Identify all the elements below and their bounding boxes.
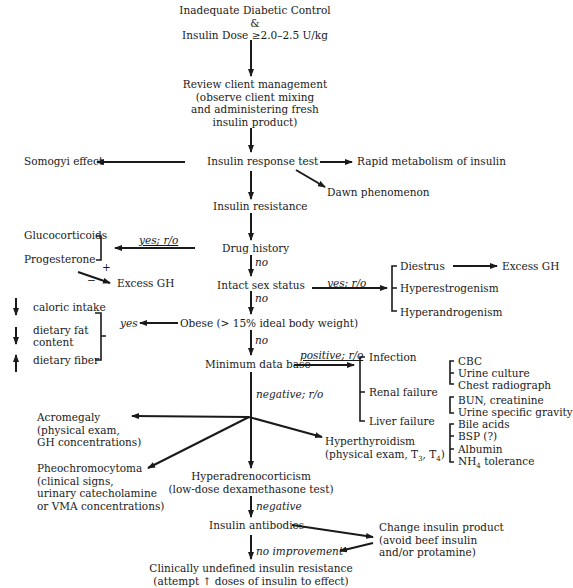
dietary-fat-line2: content [33,336,73,349]
hyperthyroidism-node: Hyperthyroidism (physical exam, T3, T4) [325,435,445,465]
clinically-undefined-node: Clinically undefined insulin resistance … [131,562,371,587]
nh4-base: NH [458,455,476,467]
change-line3: and/or protamine) [379,546,504,559]
caloric-intake: caloric intake [33,301,106,314]
minimum-data-base-node: Minimum data base [205,358,311,371]
dietary-fiber: dietary fiber [33,354,99,367]
hyperadrenocorticism-node: Hyperadrenocorticism (low-dose dexametha… [166,470,336,495]
acromegaly-line2: (physical exam, [37,424,141,437]
pheo-line3: urinary catecholamine [37,487,164,500]
progesterone-node: Progesterone [24,253,95,266]
acromegaly-line1: Acromegaly [37,411,141,424]
intact-sex-status-node: Intact sex status [217,279,305,292]
review-line4: insulin product) [160,116,350,129]
excess-gh-node-1: Excess GH [117,277,174,290]
hac-line2: (low-dose dexamethasone test) [166,483,336,496]
acromegaly-line3: GH concentrations) [37,436,141,449]
diestrus-node: Diestrus [400,260,445,273]
obese-no-label: no [255,334,268,347]
pheo-line4: or VMA concentrations) [37,500,164,513]
mdb-negative-label: negative; r/o [256,388,323,401]
hyperthyroid-line1: Hyperthyroidism [325,435,445,448]
infection-node: Infection [369,351,417,364]
hyperandrogenism-node: Hyperandrogenism [400,306,503,319]
dawn-phenomenon-node: Dawn phenomenon [327,186,430,199]
test-bsp: BSP (?) [458,430,497,443]
start-line2: & [150,17,360,30]
start-line1: Inadequate Diabetic Control [150,4,360,17]
drug-history-node: Drug history [222,242,289,255]
change-insulin-node: Change insulin product (avoid beef insul… [379,521,504,559]
undefined-line1: Clinically undefined insulin resistance [131,562,371,575]
hyperthyroid-line2: (physical exam, T3, T4) [325,448,445,466]
pheo-line1: Pheochromocytoma [37,462,164,475]
no-improvement-label: no improvement [256,545,343,558]
nh4-rest: tolerance [481,455,535,467]
review-node: Review client management (observe client… [160,78,350,128]
insulin-antibodies-node: Insulin antibodies [209,519,304,532]
excess-gh-node-2: Excess GH [502,260,559,273]
test-chest-radiograph: Chest radiograph [458,379,551,392]
hac-line1: Hyperadrenocorticism [166,470,336,483]
intact-no-label: no [255,292,268,305]
plus-sign: + [102,261,111,274]
start-node: Inadequate Diabetic Control & Insulin Do… [150,4,360,42]
test-urine-culture: Urine culture [458,367,530,380]
insulin-response-test-node: Insulin response test [207,155,318,168]
change-line1: Change insulin product [379,521,504,534]
ht-part-a: (physical exam, T [325,448,418,460]
review-line1: Review client management [160,78,350,91]
somogyi-node: Somogyi effect [24,155,103,168]
test-bile-acids: Bile acids [458,418,510,431]
obese-node: Obese (> 15% ideal body weight) [180,317,358,330]
start-line3: Insulin Dose ≥2.0–2.5 U/kg [150,29,360,42]
review-line3: and administering fresh [160,103,350,116]
change-line2: (avoid beef insulin [379,534,504,547]
drug-yes-label: yes; r/o [139,234,178,247]
glucocorticoids-node: Glucocorticoids [24,229,107,242]
review-line2: (observe client mixing [160,91,350,104]
pheochromocytoma-node: Pheochromocytoma (clinical signs, urinar… [37,462,164,512]
hac-negative-label: negative [256,500,302,513]
mdb-positive-label: positive; r/o [300,349,363,362]
minus-sign: − [87,274,96,287]
rapid-metabolism-node: Rapid metabolism of insulin [357,155,506,168]
test-nh4-tolerance: NH4 tolerance [458,455,534,473]
pheo-line2: (clinical signs, [37,475,164,488]
intact-yes-label: yes; r/o [327,277,366,290]
insulin-resistance-node: Insulin resistance [213,200,308,213]
dietary-fat-line1: dietary fat [33,324,88,337]
hyperestrogenism-node: Hyperestrogenism [400,282,499,295]
test-cbc: CBC [458,355,482,368]
acromegaly-node: Acromegaly (physical exam, GH concentrat… [37,411,141,449]
test-albumin: Albumin [458,443,503,456]
drug-no-label: no [255,256,268,269]
test-bun-creatinine: BUN, creatinine [458,394,544,407]
liver-failure-node: Liver failure [369,415,435,428]
obese-yes-label: yes [120,317,138,330]
ht-part-b: , T [423,448,437,460]
ht-part-c: ) [441,448,445,460]
renal-failure-node: Renal failure [369,386,438,399]
undefined-line2: (attempt ↑ doses of insulin to effect) [131,575,371,588]
test-urine-specific-gravity: Urine specific gravity [458,406,573,419]
